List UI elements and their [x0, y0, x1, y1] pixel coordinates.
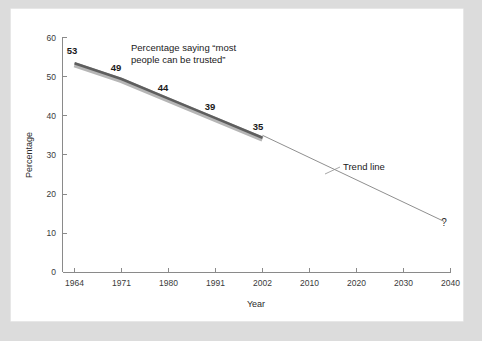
y-tick-label: 50	[47, 72, 57, 82]
image-frame: 60 50 40 30 20 10 0 Percentage	[0, 0, 482, 341]
trend-line-label: Trend line	[343, 161, 385, 172]
x-tick-label: 1964	[65, 278, 84, 288]
x-axis-ticks	[75, 268, 451, 273]
y-tick-label: 30	[47, 150, 57, 160]
trend-line-series	[263, 135, 445, 221]
chart-card: 60 50 40 30 20 10 0 Percentage	[11, 9, 463, 321]
x-tick-label: 1991	[206, 278, 225, 288]
x-tick-label: 1980	[159, 278, 178, 288]
series-annotation-line1: Percentage saying “most	[131, 42, 236, 53]
y-tick-label: 10	[47, 228, 57, 238]
future-question-mark: ?	[441, 217, 447, 228]
series-annotation-line2: people can be trusted”	[131, 54, 226, 65]
x-axis-title: Year	[247, 299, 265, 309]
data-label: 39	[205, 101, 216, 112]
chart-canvas: 60 50 40 30 20 10 0 Percentage	[11, 9, 463, 321]
data-label: 49	[111, 62, 122, 73]
trend-line-callout: Trend line	[325, 161, 385, 174]
y-tick-label: 40	[47, 111, 57, 121]
measured-line-series	[75, 63, 263, 139]
y-axis-ticks	[63, 38, 68, 273]
y-axis-title: Percentage	[24, 132, 34, 178]
x-tick-label: 2040	[441, 278, 460, 288]
x-tick-label: 1971	[112, 278, 131, 288]
data-label: 35	[253, 121, 264, 132]
x-tick-label: 2030	[394, 278, 413, 288]
x-tick-label: 2010	[300, 278, 319, 288]
y-tick-label: 60	[47, 33, 57, 43]
y-tick-label: 0	[51, 267, 56, 277]
data-label: 53	[67, 45, 78, 56]
x-tick-label: 2020	[347, 278, 366, 288]
y-tick-label: 20	[47, 189, 57, 199]
data-label: 44	[158, 82, 169, 93]
x-tick-label: 2002	[253, 278, 272, 288]
series-annotation: Percentage saying “most people can be tr…	[131, 42, 236, 65]
